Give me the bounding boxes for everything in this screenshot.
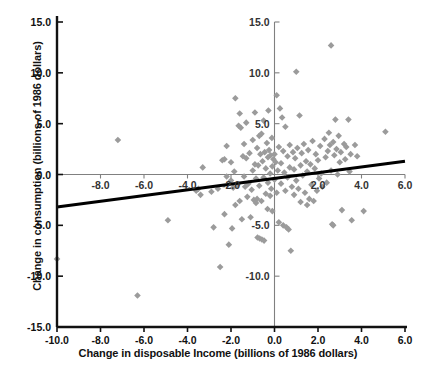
data-point	[286, 142, 293, 149]
data-point	[232, 95, 239, 102]
data-point	[289, 183, 296, 190]
data-point	[248, 186, 255, 193]
tick-label: -4.0	[178, 179, 196, 191]
data-point	[199, 164, 206, 171]
tick-label: 6.0	[398, 179, 413, 191]
data-point	[321, 136, 328, 143]
data-point	[249, 137, 256, 144]
data-point	[221, 211, 228, 218]
data-point	[265, 107, 272, 114]
data-point	[277, 105, 284, 112]
data-point	[226, 241, 233, 248]
data-point	[282, 187, 289, 194]
data-point	[236, 110, 243, 117]
data-point	[249, 167, 256, 174]
tick-label: 4.0	[354, 334, 369, 346]
data-point	[241, 141, 248, 148]
data-point	[252, 109, 259, 116]
data-point	[239, 216, 246, 223]
data-point	[268, 185, 275, 192]
inner-axes-group	[57, 22, 405, 327]
data-point	[360, 208, 367, 215]
data-point	[332, 116, 339, 123]
data-point	[263, 165, 270, 172]
data-point	[229, 225, 236, 232]
data-point	[328, 42, 335, 49]
tick-label: -6.0	[135, 179, 153, 191]
data-point	[231, 168, 238, 175]
tick-label: -15.0	[27, 321, 51, 333]
data-point	[244, 194, 251, 201]
data-point	[284, 153, 291, 160]
tick-label: 0.0	[36, 169, 51, 181]
data-point	[305, 147, 312, 154]
tick-label: -10.0	[45, 334, 69, 346]
data-point	[298, 150, 305, 157]
tick-label: -8.0	[91, 179, 109, 191]
tick-label: -2.0	[222, 334, 240, 346]
data-point	[134, 292, 141, 299]
data-point	[347, 151, 354, 158]
data-point	[324, 148, 331, 155]
data-point	[342, 156, 349, 163]
data-point	[228, 159, 235, 166]
data-point	[254, 145, 261, 152]
data-point	[256, 182, 263, 189]
data-point	[315, 157, 322, 164]
data-point	[232, 202, 239, 209]
tick-label: 2.0	[311, 179, 326, 191]
data-point	[274, 167, 281, 174]
scatter-plot-figure: Change in consumption (billions of 1986 …	[0, 0, 422, 366]
data-point	[276, 144, 283, 151]
data-point	[334, 171, 341, 178]
data-point	[331, 152, 338, 159]
data-point	[382, 129, 389, 136]
data-point	[267, 170, 274, 177]
tick-label: 4.0	[354, 179, 369, 191]
tick-label: -4.0	[178, 334, 196, 346]
data-point	[217, 264, 224, 271]
data-point	[336, 159, 343, 166]
data-point	[293, 177, 300, 184]
data-point	[288, 247, 295, 254]
data-point	[304, 202, 311, 209]
tick-label: 10.0	[249, 67, 270, 79]
data-point	[264, 140, 271, 147]
data-point	[317, 143, 324, 150]
tick-label: -8.0	[91, 334, 109, 346]
tick-label: 2.0	[311, 334, 326, 346]
tick-label: -6.0	[135, 334, 153, 346]
data-point	[348, 217, 355, 224]
data-point	[243, 119, 250, 126]
data-point	[296, 112, 303, 119]
tick-label: -10.0	[246, 270, 270, 282]
tick-label: 6.0	[398, 334, 413, 346]
data-point	[295, 185, 302, 192]
data-point	[115, 137, 122, 144]
data-point	[279, 114, 286, 121]
data-point	[301, 141, 308, 148]
data-point	[297, 162, 304, 169]
tick-label: -10.0	[27, 270, 51, 282]
plot-canvas: -8.0-6.0-4.0-2.02.04.06.015.010.05.0-5.0…	[0, 0, 422, 366]
data-point	[236, 198, 243, 205]
data-point	[293, 69, 300, 76]
data-point	[297, 199, 304, 206]
data-point	[280, 148, 287, 155]
tick-label: 5.0	[255, 118, 270, 130]
data-point	[291, 192, 298, 199]
data-point	[210, 224, 217, 231]
data-point	[197, 192, 204, 199]
data-point	[322, 154, 329, 161]
data-point	[326, 130, 333, 137]
data-point	[354, 153, 361, 160]
data-point	[282, 123, 289, 130]
data-point	[294, 145, 301, 152]
data-point	[278, 160, 285, 167]
data-point	[246, 150, 253, 157]
data-point	[259, 158, 266, 165]
tick-label: -5.0	[251, 219, 269, 231]
data-point	[290, 149, 297, 156]
data-point	[352, 142, 359, 149]
tick-label: 0.0	[267, 334, 282, 346]
